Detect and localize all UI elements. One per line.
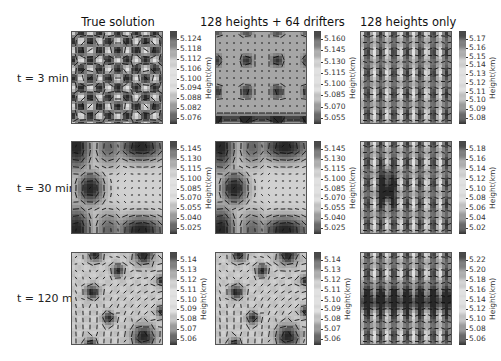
colorbar-tick-label: 5.22 (469, 256, 486, 264)
colorbar-r2-c0 (170, 252, 177, 345)
colorbar-tick-label: 5.08 (469, 325, 486, 333)
colorbar-tick-label: 5.130 (324, 58, 345, 66)
colorbar-tick-label: 5.06 (180, 335, 197, 343)
heatmap-panel-r1-c1 (215, 141, 307, 234)
colorbar-tick-label: 5.088 (180, 94, 201, 102)
colorbar-tick-label: 5.09 (324, 305, 341, 313)
colorbar-axis-label: Height(km) (199, 278, 208, 320)
colorbar-tick-label: 5.160 (324, 35, 345, 43)
colorbar-tick-label: 5.08 (469, 194, 486, 202)
colorbar-tick-label: 5.04 (469, 214, 486, 222)
heatmap-panel-r2-c2 (360, 252, 452, 345)
colorbar-tick-label: 5.085 (324, 185, 345, 193)
colorbar-tick-label: 5.10 (324, 296, 341, 304)
heatmap-panel-r2-c0 (71, 252, 163, 345)
colorbar-tick-label: 5.18 (469, 276, 486, 284)
colorbar-tick-label: 5.076 (180, 114, 201, 122)
colorbar-tick-label: 5.055 (180, 204, 201, 212)
colorbar-tick-label: 5.02 (469, 224, 486, 232)
colorbar-tick-label: 5.14 (180, 256, 197, 264)
colorbar-tick-label: 5.025 (324, 224, 345, 232)
colorbar-tick-label: 5.13 (469, 70, 486, 78)
colorbar-tick-label: 5.055 (324, 204, 345, 212)
row-label-t30: t = 30 min (17, 182, 76, 195)
heatmap-panel-r0-c0 (71, 31, 163, 124)
colorbar-r1-c1 (314, 141, 321, 234)
colorbar-tick-label: 5.100 (180, 75, 201, 83)
colorbar-tick-label: 5.130 (180, 155, 201, 163)
colorbar-axis-label: Height(km) (343, 278, 352, 320)
colorbar-r2-c1 (314, 252, 321, 345)
colorbar-tick-label: 5.070 (180, 194, 201, 202)
colorbar-tick-label: 5.16 (469, 286, 486, 294)
heatmap-panel-r0-c2 (360, 31, 452, 124)
colorbar-tick-label: 5.16 (469, 44, 486, 52)
colorbar-tick-label: 5.07 (180, 325, 197, 333)
colorbar-tick-label: 5.12 (469, 175, 486, 183)
colorbar-tick-label: 5.100 (324, 80, 345, 88)
colorbar-tick-label: 5.040 (324, 214, 345, 222)
colorbar-tick-label: 5.055 (324, 114, 345, 122)
colorbar-tick-label: 5.070 (324, 103, 345, 111)
colorbar-tick-label: 5.100 (180, 175, 201, 183)
colorbar-tick-label: 5.12 (469, 305, 486, 313)
colorbar-tick-label: 5.11 (180, 286, 197, 294)
colorbar-r1-c2 (459, 141, 466, 234)
colorbar-tick-label: 5.100 (324, 175, 345, 183)
colorbar-tick-label: 5.10 (180, 296, 197, 304)
colorbar-tick-label: 5.08 (469, 114, 486, 122)
heatmap-panel-r1-c0 (71, 141, 163, 234)
colorbar-axis-label: Height(km) (204, 167, 213, 209)
colorbar-axis-label: Height(km) (488, 278, 497, 320)
colorbar-axis-label: Height(km) (204, 57, 213, 99)
colorbar-tick-label: 5.12 (180, 276, 197, 284)
colorbar-tick-label: 5.17 (469, 35, 486, 43)
colorbar-tick-label: 5.085 (180, 185, 201, 193)
colorbar-tick-label: 5.025 (180, 224, 201, 232)
colorbar-tick-label: 5.13 (324, 266, 341, 274)
colorbar-axis-label: Height(km) (348, 57, 357, 99)
colorbar-axis-label: Height(km) (348, 167, 357, 209)
colorbar-tick-label: 5.070 (324, 194, 345, 202)
colorbar-tick-label: 5.118 (180, 45, 201, 53)
colorbar-tick-label: 5.112 (180, 55, 201, 63)
heatmap-panel-r0-c1 (215, 31, 307, 124)
colorbar-tick-label: 5.082 (180, 104, 201, 112)
column-title-heights-only: 128 heights only (360, 15, 452, 29)
colorbar-tick-label: 5.130 (324, 155, 345, 163)
colorbar-tick-label: 5.11 (324, 286, 341, 294)
colorbar-tick-label: 5.115 (180, 165, 201, 173)
colorbar-tick-label: 5.106 (180, 65, 201, 73)
colorbar-tick-label: 5.14 (469, 165, 486, 173)
heatmap-panel-r1-c2 (360, 141, 452, 234)
colorbar-axis-label: Height(km) (488, 167, 497, 209)
colorbar-tick-label: 5.10 (469, 315, 486, 323)
colorbar-tick-label: 5.12 (324, 276, 341, 284)
colorbar-tick-label: 5.09 (180, 305, 197, 313)
colorbar-tick-label: 5.07 (324, 325, 341, 333)
colorbar-tick-label: 5.14 (469, 296, 486, 304)
heatmap-panel-r2-c1 (215, 252, 307, 345)
colorbar-tick-label: 5.124 (180, 35, 201, 43)
colorbar-tick-label: 5.20 (469, 266, 486, 274)
colorbar-axis-label: Height(km) (488, 57, 497, 99)
colorbar-r2-c2 (459, 252, 466, 345)
colorbar-r1-c0 (170, 141, 177, 234)
colorbar-tick-label: 5.08 (180, 315, 197, 323)
colorbar-r0-c0 (170, 31, 177, 124)
colorbar-r0-c1 (314, 31, 321, 124)
colorbar-tick-label: 5.145 (180, 145, 201, 153)
colorbar-tick-label: 5.040 (180, 214, 201, 222)
colorbar-tick-label: 5.14 (324, 256, 341, 264)
colorbar-tick-label: 5.16 (469, 155, 486, 163)
colorbar-tick-label: 5.13 (180, 266, 197, 274)
column-title-true-solution: True solution (72, 15, 164, 29)
colorbar-tick-label: 5.145 (324, 46, 345, 54)
row-label-t3: t = 3 min (17, 72, 69, 85)
colorbar-tick-label: 5.06 (469, 335, 486, 343)
colorbar-tick-label: 5.06 (324, 335, 341, 343)
colorbar-tick-label: 5.115 (324, 69, 345, 77)
colorbar-tick-label: 5.18 (469, 145, 486, 153)
colorbar-tick-label: 5.12 (469, 79, 486, 87)
colorbar-tick-label: 5.094 (180, 84, 201, 92)
